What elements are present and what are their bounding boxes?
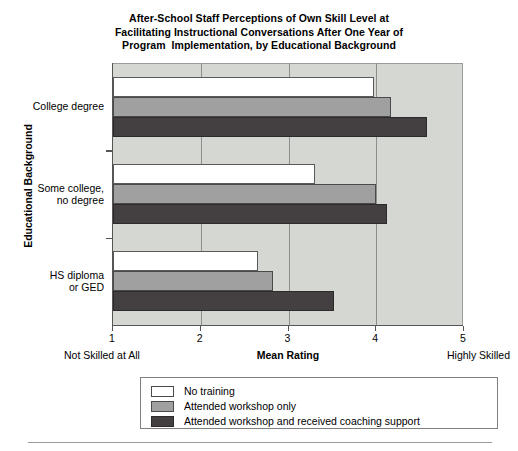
x-tick-3 (288, 326, 289, 331)
bar (113, 97, 391, 117)
x-axis-high-anchor-label: Highly Skilled (447, 349, 510, 361)
bar (113, 184, 376, 204)
x-tick-5 (463, 326, 464, 331)
bar (113, 164, 315, 184)
y-axis-line (112, 63, 113, 326)
legend-swatch-icon (151, 401, 174, 412)
chart-title-line-3: Program Implementation, by Educational B… (79, 39, 439, 53)
bar (113, 251, 258, 271)
y-category-label-line: or GED (8, 281, 104, 294)
bar (113, 291, 334, 311)
bar (113, 271, 273, 291)
plot-area (112, 63, 463, 325)
plot-right-edge (462, 63, 463, 325)
legend-item-label: Attended workshop only (184, 400, 296, 412)
y-tick-2 (106, 238, 112, 239)
x-tick-4 (375, 326, 376, 331)
y-tick-1 (106, 150, 112, 151)
x-tick-label-4: 4 (360, 332, 390, 344)
chart-title: After-School Staff Perceptions of Own Sk… (79, 12, 439, 53)
footer-rule (28, 442, 492, 443)
x-tick-1 (112, 326, 113, 331)
x-tick-label-3: 3 (273, 332, 303, 344)
x-tick-label-5: 5 (448, 332, 478, 344)
legend-item-label: No training (184, 385, 235, 397)
bar (113, 204, 387, 224)
legend-item-label: Attended workshop and received coaching … (184, 415, 420, 427)
x-axis-title: Mean Rating (188, 349, 388, 361)
bar (113, 77, 374, 97)
x-tick-2 (200, 326, 201, 331)
chart-title-line-2: Facilitating Instructional Conversations… (79, 26, 439, 40)
x-axis-low-anchor-label: Not Skilled at All (64, 349, 140, 361)
x-tick-label-1: 1 (97, 332, 127, 344)
figure-container: After-School Staff Perceptions of Own Sk… (0, 0, 518, 451)
legend-swatch-icon (151, 386, 174, 397)
bar (113, 117, 427, 137)
legend-swatch-icon (151, 416, 174, 427)
chart-title-line-1: After-School Staff Perceptions of Own Sk… (79, 12, 439, 26)
x-tick-label-2: 2 (185, 332, 215, 344)
legend-box: No trainingAttended workshop onlyAttende… (140, 377, 498, 429)
y-axis-title: Educational Background (22, 96, 34, 276)
